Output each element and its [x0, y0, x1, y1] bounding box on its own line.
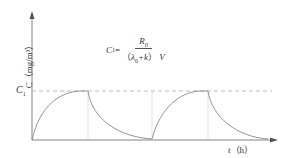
concentration-time-diagram: C（mg/m³） C1 t（h） C1= R0 （λ0+k） V [0, 0, 290, 158]
formula-fraction: R0 （λ0+k） V [122, 36, 165, 64]
c1-label: C1 [16, 84, 26, 97]
y-axis-arrow-icon [30, 11, 35, 19]
x-axis-arrow-icon [270, 138, 278, 143]
diagram-canvas [0, 0, 290, 158]
c1-formula: C1= R0 （λ0+k） V [106, 36, 165, 64]
x-axis-label: t（h） [228, 143, 253, 156]
formula-numerator: R0 [135, 36, 152, 49]
formula-denominator: （λ0+k） V [122, 49, 165, 64]
concentration-curve [32, 91, 268, 140]
